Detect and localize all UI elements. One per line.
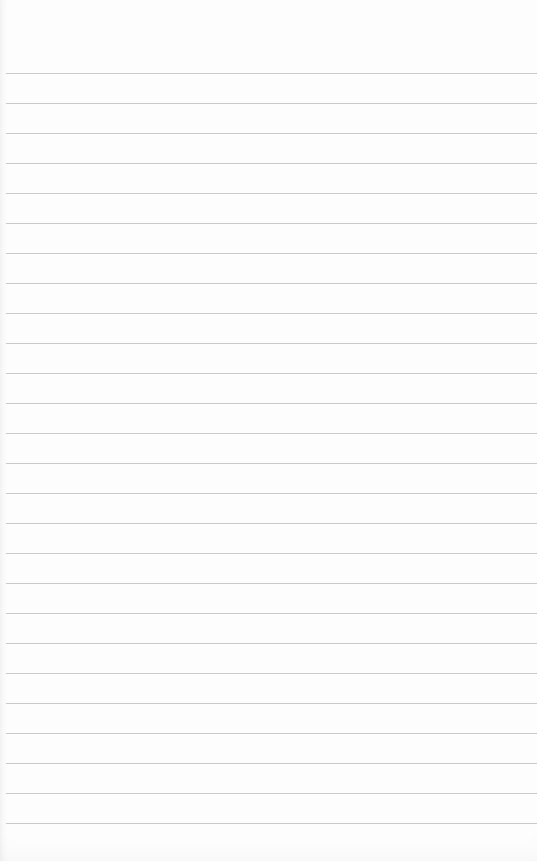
ruled-line: [6, 253, 537, 254]
ruled-line: [6, 673, 537, 674]
ruled-line: [6, 373, 537, 374]
ruled-line: [6, 823, 537, 824]
lined-paper: [0, 0, 537, 861]
ruled-line: [6, 583, 537, 584]
ruled-line: [6, 193, 537, 194]
ruled-line: [6, 433, 537, 434]
ruled-line: [6, 493, 537, 494]
ruled-line: [6, 613, 537, 614]
ruled-line: [6, 403, 537, 404]
ruled-line: [6, 733, 537, 734]
ruled-line: [6, 523, 537, 524]
ruled-line: [6, 343, 537, 344]
ruled-line: [6, 553, 537, 554]
ruled-line: [6, 313, 537, 314]
ruled-line: [6, 283, 537, 284]
ruled-line: [6, 643, 537, 644]
ruled-line: [6, 703, 537, 704]
ruled-line: [6, 763, 537, 764]
ruled-line: [6, 463, 537, 464]
ruled-line: [6, 73, 537, 74]
ruled-line: [6, 163, 537, 164]
ruled-line: [6, 223, 537, 224]
ruled-line: [6, 103, 537, 104]
ruled-line: [6, 133, 537, 134]
ruled-line: [6, 793, 537, 794]
